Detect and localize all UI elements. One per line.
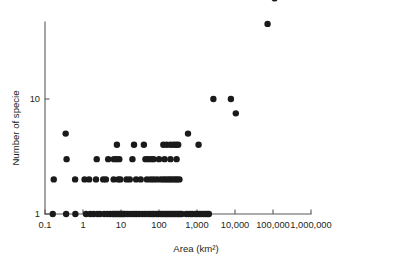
- data-point: [138, 176, 144, 182]
- data-point: [210, 96, 216, 102]
- data-point: [72, 211, 78, 217]
- data-point: [129, 156, 135, 162]
- data-point: [264, 21, 270, 27]
- data-point: [72, 176, 78, 182]
- data-point: [131, 142, 137, 148]
- y-tick-label: 10: [30, 94, 40, 104]
- data-point: [94, 156, 100, 162]
- data-point: [86, 176, 92, 182]
- data-point: [117, 176, 123, 182]
- data-point: [195, 142, 201, 148]
- data-point: [103, 176, 109, 182]
- data-point: [156, 156, 162, 162]
- y-tick-label: 1: [35, 209, 40, 219]
- data-point: [63, 156, 69, 162]
- data-point: [161, 156, 167, 162]
- data-points-group: [50, 0, 278, 217]
- x-tick-label: 100: [151, 220, 167, 230]
- data-point: [167, 156, 173, 162]
- data-point: [114, 142, 120, 148]
- y-axis-title: Number of specie: [10, 90, 21, 165]
- scatter-plot-figure: 0.11101001,00010,000100,0001,000,000110 …: [0, 0, 396, 260]
- x-tick-label: 10,000: [221, 220, 249, 230]
- chart-canvas: 0.11101001,00010,000100,0001,000,000110 …: [0, 0, 396, 260]
- data-point: [185, 130, 191, 136]
- data-point: [176, 176, 182, 182]
- data-point: [175, 142, 181, 148]
- data-point: [105, 156, 111, 162]
- data-point: [206, 211, 212, 217]
- x-tick-label: 100,000: [256, 220, 290, 230]
- data-point: [173, 156, 179, 162]
- data-point: [228, 96, 234, 102]
- data-point: [233, 110, 239, 116]
- data-point: [50, 211, 56, 217]
- axes-group: [45, 22, 311, 214]
- data-point: [141, 142, 147, 148]
- x-tick-label: 10: [116, 220, 126, 230]
- x-tick-label: 0.1: [39, 220, 52, 230]
- x-tick-label: 1: [80, 220, 85, 230]
- tick-labels-group: 0.11101001,00010,000100,0001,000,000110: [30, 94, 332, 230]
- data-point: [127, 176, 133, 182]
- x-axis-title: Area (km²): [173, 243, 218, 254]
- data-point: [63, 211, 69, 217]
- x-tick-label: 1,000: [185, 220, 208, 230]
- data-point: [116, 156, 122, 162]
- data-point: [51, 176, 57, 182]
- x-tick-label: 1,000,000: [290, 220, 331, 230]
- data-point: [93, 176, 99, 182]
- data-point: [271, 0, 277, 2]
- data-point: [62, 130, 68, 136]
